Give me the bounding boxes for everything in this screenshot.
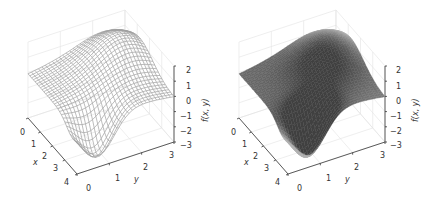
wireframe-axis-labels: 0 1 2 3 4 x 0 1 2 3 y 2 1 0 −1 −2 −3 f(x…: [0, 0, 219, 201]
y-tick-1: 1: [326, 174, 331, 183]
x-tick-1: 1: [242, 140, 247, 149]
y-tick-2: 2: [143, 163, 148, 172]
z-tick-2: 2: [186, 66, 191, 75]
z-tick-1: 1: [186, 82, 191, 91]
x-tick-3: 3: [264, 164, 269, 173]
z-tick-0: 0: [186, 97, 191, 106]
z-tick-1: 1: [396, 82, 401, 91]
y-tick-0: 0: [86, 184, 91, 193]
figure: 0 1 2 3 4 x 0 1 2 3 y 2 1 0 −1 −2 −3 f(x…: [0, 0, 439, 201]
z-tick-m2: −2: [390, 127, 402, 136]
z-tick-m3: −3: [390, 141, 402, 150]
x-tick-4: 4: [64, 178, 69, 187]
z-axis-label: f(x, y): [201, 98, 210, 122]
x-tick-3: 3: [53, 164, 58, 173]
x-tick-0: 0: [20, 128, 25, 137]
z-axis-label: f(x, y): [411, 98, 420, 122]
y-tick-2: 2: [354, 163, 359, 172]
y-tick-0: 0: [297, 184, 302, 193]
x-tick-1: 1: [31, 140, 36, 149]
x-tick-2: 2: [42, 152, 47, 161]
y-axis-label: y: [344, 175, 350, 184]
x-tick-2: 2: [253, 152, 258, 161]
x-axis-label: x: [243, 158, 249, 167]
y-tick-3: 3: [169, 151, 174, 160]
y-axis-label: y: [133, 175, 139, 184]
x-axis-label: x: [32, 158, 38, 167]
z-tick-2: 2: [396, 66, 401, 75]
z-tick-m3: −3: [180, 141, 192, 150]
z-tick-m1: −1: [390, 112, 402, 121]
z-tick-m1: −1: [180, 112, 192, 121]
y-tick-1: 1: [115, 174, 120, 183]
x-tick-0: 0: [231, 128, 236, 137]
z-tick-0: 0: [396, 97, 401, 106]
z-tick-m2: −2: [180, 127, 192, 136]
surface-axis-labels: 0 1 2 3 4 x 0 1 2 3 y 2 1 0 −1 −2 −3 f(x…: [219, 0, 438, 201]
x-tick-4: 4: [275, 178, 280, 187]
y-tick-3: 3: [380, 151, 385, 160]
